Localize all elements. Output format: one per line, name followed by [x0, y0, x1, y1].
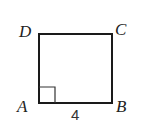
vertex-label-c: C — [115, 20, 127, 39]
vertex-label-a: A — [16, 97, 28, 116]
square-diagram: D C A B 4 — [0, 0, 141, 132]
vertex-label-d: D — [18, 22, 32, 41]
side-length-ab: 4 — [71, 106, 79, 123]
square-abcd — [39, 34, 112, 103]
vertex-label-b: B — [116, 97, 127, 116]
right-angle-marker — [39, 87, 55, 103]
